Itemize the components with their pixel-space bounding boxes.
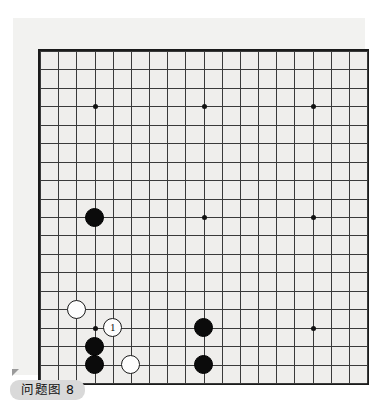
grid-line-horizontal (40, 291, 367, 292)
stone-black[interactable] (194, 318, 213, 337)
grid-line-vertical (240, 51, 241, 383)
grid-line-horizontal (40, 235, 367, 236)
go-board[interactable]: 1 (38, 49, 369, 385)
grid-line-horizontal (40, 254, 367, 255)
stone-move-number: 1 (104, 319, 121, 336)
star-point (311, 215, 316, 220)
board-panel: 1 (13, 18, 365, 375)
stone-black[interactable] (194, 355, 213, 374)
grid-line-horizontal (40, 272, 367, 273)
grid-line-vertical (294, 51, 295, 383)
star-point (311, 326, 316, 331)
grid-line-vertical (258, 51, 259, 383)
stone-white[interactable] (121, 355, 140, 374)
stone-white-move-1[interactable]: 1 (103, 318, 122, 337)
star-point (93, 104, 98, 109)
stone-black[interactable] (85, 337, 104, 356)
page-root: 1 问题图 8 (0, 0, 377, 406)
stone-white[interactable] (67, 300, 86, 319)
star-point (311, 104, 316, 109)
caption-corner-marker (12, 369, 19, 376)
grid-line-vertical (331, 51, 332, 383)
grid-line-horizontal (40, 309, 367, 310)
caption-label: 问题图 8 (10, 380, 85, 401)
star-point (93, 326, 98, 331)
stone-black[interactable] (85, 355, 104, 374)
grid-line-vertical (367, 51, 368, 383)
grid-line-vertical (222, 51, 223, 383)
grid-line-vertical (349, 51, 350, 383)
grid-line-vertical (276, 51, 277, 383)
stone-black[interactable] (85, 208, 104, 227)
figure-caption: 问题图 8 (10, 379, 85, 401)
grid-line-horizontal (40, 383, 367, 384)
star-point (202, 215, 207, 220)
star-point (202, 104, 207, 109)
